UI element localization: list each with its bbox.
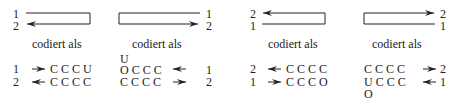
- panel-2: 1 2 codiert als U O C C C 1 C C C C 2: [114, 0, 228, 104]
- row-label: 2: [206, 76, 212, 88]
- row-code: C C C C: [120, 76, 161, 88]
- row-label: 2: [440, 63, 446, 75]
- panel-1: 1 2 codiert als 1 C C C U 2 C C C C: [0, 0, 114, 104]
- extra-code: O: [364, 88, 373, 100]
- strand-label-bottom: 2: [13, 20, 19, 32]
- caption: codiert als: [32, 38, 82, 50]
- caption: codiert als: [268, 38, 318, 50]
- row-code: C C C U: [50, 63, 92, 75]
- strand-label-bottom: 1: [440, 20, 446, 32]
- row-code: C C C C: [364, 63, 405, 75]
- panel-3: 2 1 codiert als 2 C C C C 1 C C C O: [228, 0, 342, 104]
- row-label: 2: [250, 63, 256, 75]
- strand-label-bottom: 2: [206, 20, 212, 32]
- row-label: 1: [440, 76, 446, 88]
- caption: codiert als: [372, 38, 422, 50]
- strand-label-bottom: 1: [250, 20, 256, 32]
- row-label: 2: [13, 76, 19, 88]
- row-code: C C C O: [286, 76, 328, 88]
- row-label: 1: [250, 76, 256, 88]
- row-label: 1: [13, 63, 19, 75]
- row-code: C C C C: [286, 63, 327, 75]
- row-code: C C C C: [50, 76, 91, 88]
- caption: codiert als: [132, 38, 182, 50]
- panel-4: 2 1 codiert als C C C C 2 U C C C 1 O: [342, 0, 456, 104]
